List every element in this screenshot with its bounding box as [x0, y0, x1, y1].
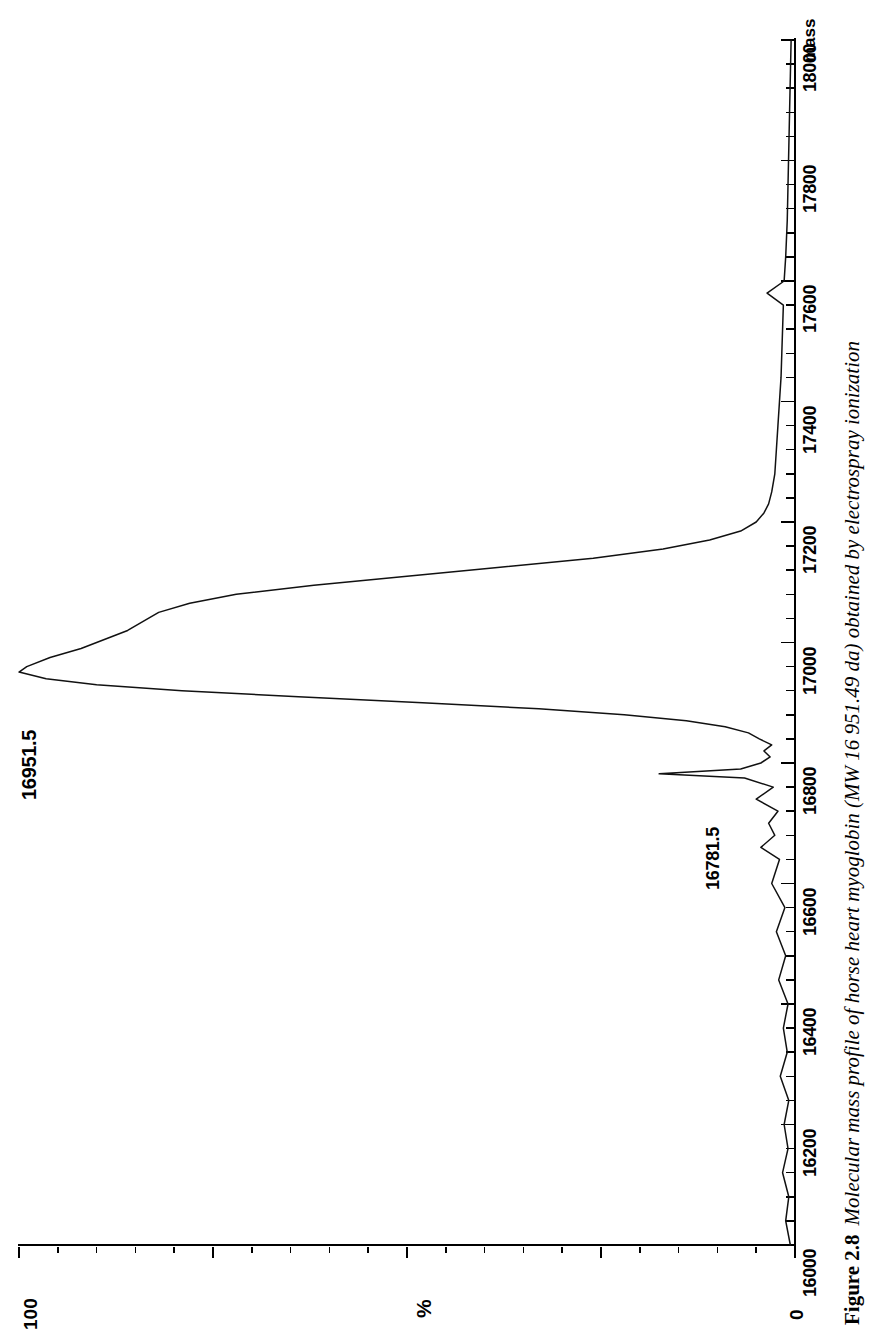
figure-stage: 1600016200164001660016800170001720017400…: [0, 0, 874, 1337]
figure-caption: Figure 2.8Molecular mass profile of hors…: [840, 341, 865, 1325]
figure-caption-text: Molecular mass profile of horse heart my…: [840, 341, 864, 1225]
spectrum-trace: [0, 0, 874, 1337]
figure-number: Figure 2.8: [840, 1234, 864, 1325]
